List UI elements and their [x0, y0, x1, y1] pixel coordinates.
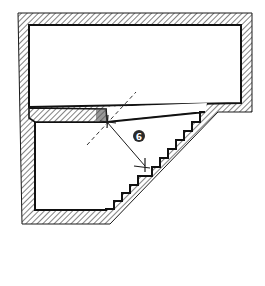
- floor-plan-diagram: 6: [0, 0, 265, 286]
- lower-room: [35, 112, 205, 210]
- callout-badge: 6: [133, 130, 145, 142]
- upper-room: [29, 25, 241, 107]
- callout-label: 6: [136, 132, 142, 142]
- interior-wall-stub: [29, 108, 107, 122]
